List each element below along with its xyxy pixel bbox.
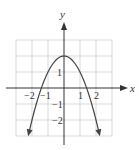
y-tick-minus1: −1 — [52, 99, 63, 110]
y-axis-arrow-icon — [61, 22, 67, 30]
x-tick-2: 2 — [94, 90, 99, 101]
x-tick-1: 1 — [78, 90, 83, 101]
axes — [6, 26, 124, 145]
x-axis-label: x — [129, 82, 135, 94]
x-tick-minus2: −2 — [24, 90, 35, 101]
y-tick-1: 1 — [57, 67, 62, 78]
x-axis-arrow-icon — [120, 85, 128, 91]
y-axis-label: y — [59, 8, 65, 20]
x-tick-minus1: −1 — [40, 90, 51, 101]
parabola-chart: x y −2 −1 1 2 1 −1 −2 — [0, 0, 140, 150]
y-tick-minus2: −2 — [52, 115, 63, 126]
